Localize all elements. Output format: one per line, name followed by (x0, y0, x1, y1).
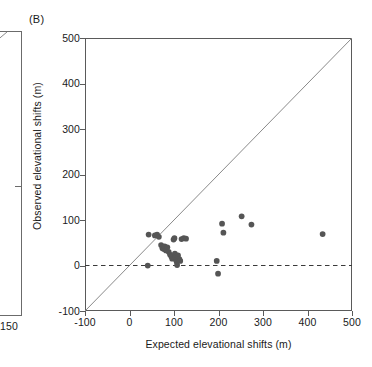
x-tick-label: 500 (330, 316, 372, 328)
data-point (221, 230, 227, 236)
x-tick-label: 100 (152, 316, 196, 328)
data-point (156, 234, 162, 240)
x-tick-mark (130, 311, 131, 316)
y-axis-title: Observed elevational shifts (m) (31, 56, 43, 256)
adjacent-panel-diagonal-svg (0, 31, 22, 316)
y-tick-label: 0 (36, 259, 80, 271)
data-point (183, 236, 189, 242)
x-tick-label: 200 (197, 316, 241, 328)
adjacent-panel-diagonal (0, 31, 22, 316)
data-point (145, 263, 151, 269)
x-axis-title: Expected elevational shifts (m) (85, 338, 352, 350)
data-point (215, 271, 221, 277)
figure-panel-b: 150 (B) -1000100200300400500 -1000100200… (0, 0, 372, 367)
x-tick-label: -100 (63, 316, 107, 328)
data-point (219, 221, 225, 227)
one-to-one-line (85, 38, 352, 311)
y-tick-label: 500 (36, 32, 80, 44)
x-tick-label: 300 (241, 316, 285, 328)
data-point (146, 232, 152, 238)
adjacent-panel-x-tick-label: 150 (0, 320, 18, 332)
y-tick-mark (80, 311, 85, 312)
x-tick-mark (219, 311, 220, 316)
data-point (214, 258, 220, 264)
data-point (249, 222, 255, 228)
x-tick-label: 400 (286, 316, 330, 328)
data-point (177, 258, 183, 264)
x-tick-mark (263, 311, 264, 316)
y-tick-label: -100 (36, 305, 80, 317)
x-tick-label: 0 (108, 316, 152, 328)
x-tick-mark (85, 311, 86, 316)
adjacent-panel-y-tick (15, 186, 21, 187)
data-point (320, 231, 326, 237)
x-tick-mark (308, 311, 309, 316)
scatter-plot-canvas (85, 38, 352, 311)
x-tick-mark (352, 311, 353, 316)
x-tick-mark (174, 311, 175, 316)
data-point (239, 213, 245, 219)
panel-label: (B) (29, 13, 44, 25)
data-point (172, 235, 178, 241)
